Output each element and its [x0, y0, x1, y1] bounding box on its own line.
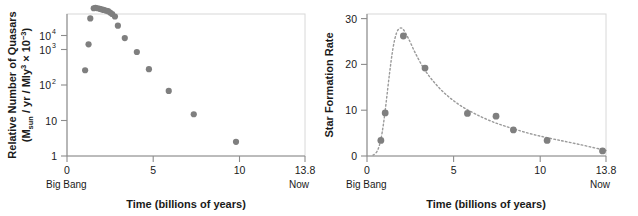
big-bang-label: Big Bang [346, 179, 387, 190]
star-formation-plot: 0 10 20 30 0 5 10 13.8 Big Bang Now Time… [319, 0, 638, 216]
x-tick-label-13-8: 13.8 [295, 164, 316, 176]
data-point [400, 33, 407, 40]
y-axis-title: Star Formation Rate [323, 32, 335, 137]
y-ticks [361, 19, 367, 156]
y-tick-labels: 1 10 10 2 10 3 10 4 [39, 28, 57, 162]
y-axis-title: Relative Number of Quasars (Msun / yr / … [6, 11, 35, 158]
two-panel-figure: 1 10 10 2 10 3 10 4 0 5 10 13.8 [0, 0, 638, 216]
y-tick-labels: 0 10 20 30 [345, 13, 357, 162]
y-axis-title-line2: (Msun / yr / Mly3 × 10−3) [19, 27, 35, 142]
data-point [599, 148, 606, 155]
ylabel-close-paren: ) [20, 27, 32, 31]
y-ticks [61, 36, 67, 157]
x-tick-label-5: 5 [451, 164, 457, 176]
x-tick-labels: 0 5 10 13.8 [64, 164, 315, 176]
x-axis-title: Time (billions of years) [426, 198, 546, 210]
panel-quasars: 1 10 10 2 10 3 10 4 0 5 10 13.8 [0, 0, 319, 216]
data-point [464, 110, 471, 117]
y-tick-label-10: 10 [45, 115, 57, 127]
x-tick-labels: 0 5 10 13.8 [364, 164, 616, 176]
data-point [544, 137, 551, 144]
data-point [493, 113, 500, 120]
x-tick-label-5: 5 [150, 164, 156, 176]
data-point [82, 67, 88, 73]
data-point [87, 15, 93, 21]
star-formation-fit-curve [373, 28, 606, 155]
star-formation-data-points [377, 33, 605, 155]
y-tick-label-10000: 10 [39, 30, 51, 42]
y-tick-label-10: 10 [345, 104, 357, 116]
quasars-plot: 1 10 10 2 10 3 10 4 0 5 10 13.8 [0, 0, 319, 216]
data-point [112, 13, 118, 19]
data-point [115, 23, 121, 29]
panel-star-formation: 0 10 20 30 0 5 10 13.8 Big Bang Now Time… [319, 0, 638, 216]
data-point [134, 49, 140, 55]
y-tick-label-20: 20 [345, 58, 357, 70]
data-point [191, 111, 197, 117]
ylabel-times-ten: × 10 [20, 40, 32, 65]
data-point [382, 110, 389, 117]
x-tick-label-0: 0 [364, 164, 370, 176]
y-tick-sup-100: 2 [52, 78, 56, 85]
y-tick-label-30: 30 [345, 13, 357, 25]
data-point [510, 126, 517, 133]
ylabel-units-mid: / yr / Mly [20, 68, 32, 116]
ylabel-msun-open: (M [20, 129, 32, 142]
x-axis-title: Time (billions of years) [126, 198, 246, 210]
data-point [377, 137, 384, 144]
x-tick-label-10: 10 [534, 164, 546, 176]
x-tick-label-10: 10 [234, 164, 246, 176]
y-tick-sup-1000: 3 [52, 42, 56, 49]
data-point [233, 139, 239, 145]
y-tick-label-1: 1 [51, 150, 57, 162]
x-tick-label-13-8: 13.8 [596, 164, 617, 176]
plot-frame [67, 14, 305, 156]
now-label: Now [590, 179, 611, 190]
ylabel-sun-sub: sun [26, 116, 35, 130]
big-bang-label: Big Bang [46, 179, 87, 190]
y-axis-title-line1: Relative Number of Quasars [6, 11, 18, 158]
data-point [122, 35, 128, 41]
y-axis-title-line1: Star Formation Rate [323, 32, 335, 137]
x-ticks [367, 156, 606, 162]
quasar-data-points [82, 5, 239, 145]
y-tick-label-0: 0 [351, 150, 357, 162]
data-point [85, 41, 91, 47]
now-label: Now [289, 179, 310, 190]
x-tick-label-0: 0 [64, 164, 70, 176]
data-point [422, 65, 429, 72]
y-tick-label-1000: 10 [39, 44, 51, 56]
data-point [166, 88, 172, 94]
y-tick-sup-10000: 4 [52, 28, 56, 35]
data-point [146, 66, 152, 72]
y-tick-label-100: 10 [39, 79, 51, 91]
x-ticks [67, 156, 305, 162]
ylabel-ten-exp: −3 [19, 31, 28, 40]
